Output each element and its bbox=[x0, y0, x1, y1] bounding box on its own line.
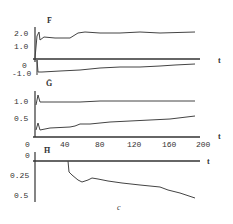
xtick-160: 160 bbox=[162, 140, 177, 149]
xtick-200: 200 bbox=[196, 140, 211, 149]
t-label-1: t bbox=[218, 56, 221, 65]
f-ytick-2: 2.0 bbox=[14, 29, 29, 38]
p3-upper-series bbox=[36, 95, 195, 105]
caption: c bbox=[117, 203, 121, 212]
p3-ytick-05: 0.5 bbox=[14, 114, 29, 123]
p3-lower-series bbox=[36, 116, 195, 130]
xtick-80: 80 bbox=[95, 140, 105, 149]
h-ytick-05: 0.5 bbox=[14, 191, 29, 200]
h-series bbox=[68, 161, 195, 198]
xtick-0: 0 bbox=[25, 140, 30, 149]
panel-f-label: F̄ bbox=[47, 16, 52, 25]
f-ytick-1: 1.0 bbox=[14, 42, 29, 51]
h-ytick-0: 0 bbox=[25, 151, 30, 160]
t-label-2: t bbox=[218, 132, 221, 141]
t-label-3: t bbox=[207, 157, 210, 166]
h-ytick-025: 0.25 bbox=[10, 171, 29, 180]
chart: F̄ 2.0 1.0 t 0 -1.0 Ḡ 1.0 0.5 t 0 40 80… bbox=[0, 0, 233, 224]
g-series bbox=[37, 60, 195, 72]
panel-h-label: H̄ bbox=[44, 146, 51, 155]
f-series bbox=[35, 32, 195, 58]
xtick-120: 120 bbox=[127, 140, 142, 149]
g-ytick-m1: -1.0 bbox=[12, 69, 31, 78]
p3-ytick-1: 1.0 bbox=[14, 97, 29, 106]
panel-g-label: Ḡ bbox=[46, 79, 52, 88]
xtick-40: 40 bbox=[60, 140, 70, 149]
